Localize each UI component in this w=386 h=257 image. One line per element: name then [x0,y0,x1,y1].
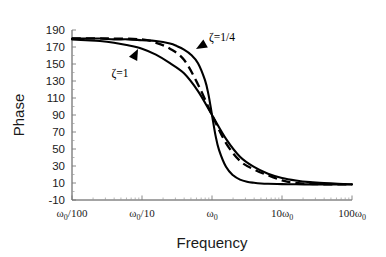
x-axis-tick-labels: ω0/100ω0/10ω010ω0100ω0 [57,207,366,222]
annotation-arrowhead-0 [196,40,208,49]
y-tick-label--10: -10 [48,194,65,206]
y-tick-label-50: 50 [52,143,65,155]
x-tick-label-4: 100ω0 [338,207,366,222]
x-axis-ticks [72,196,352,201]
series-zeta-0 [72,38,352,184]
x-axis-title: Frequency [177,234,248,251]
y-tick-label-30: 30 [52,160,65,172]
x-tick-label-3: 10ω0 [271,207,293,222]
annotation-label-1: ζ=1 [111,67,128,80]
y-tick-label-70: 70 [52,126,65,138]
annotation-arrowhead-1 [129,49,138,61]
data-curves [72,38,352,184]
y-tick-label-190: 190 [46,24,65,36]
y-tick-label-170: 170 [46,41,65,53]
y-tick-label-90: 90 [52,109,65,121]
y-tick-label-130: 130 [46,75,65,87]
y-tick-label-110: 110 [47,92,65,104]
chart-canvas: 1901701501301109070503010-10 ω0/100ω0/10… [0,0,386,257]
y-tick-label-150: 150 [46,58,65,70]
annotation-label-0: ζ=1/4 [209,31,235,44]
x-tick-label-1: ω0/10 [129,207,155,222]
x-tick-label-2: ω0 [206,207,217,222]
y-axis-tick-labels: 1901701501301109070503010-10 [46,24,65,206]
y-tick-label-10: 10 [52,177,65,189]
y-axis-title: Phase [10,94,27,137]
y-axis-ticks [72,30,76,200]
x-tick-label-0: ω0/100 [57,207,88,222]
phase-bode-plot-figure: 1901701501301109070503010-10 ω0/100ω0/10… [0,0,386,257]
